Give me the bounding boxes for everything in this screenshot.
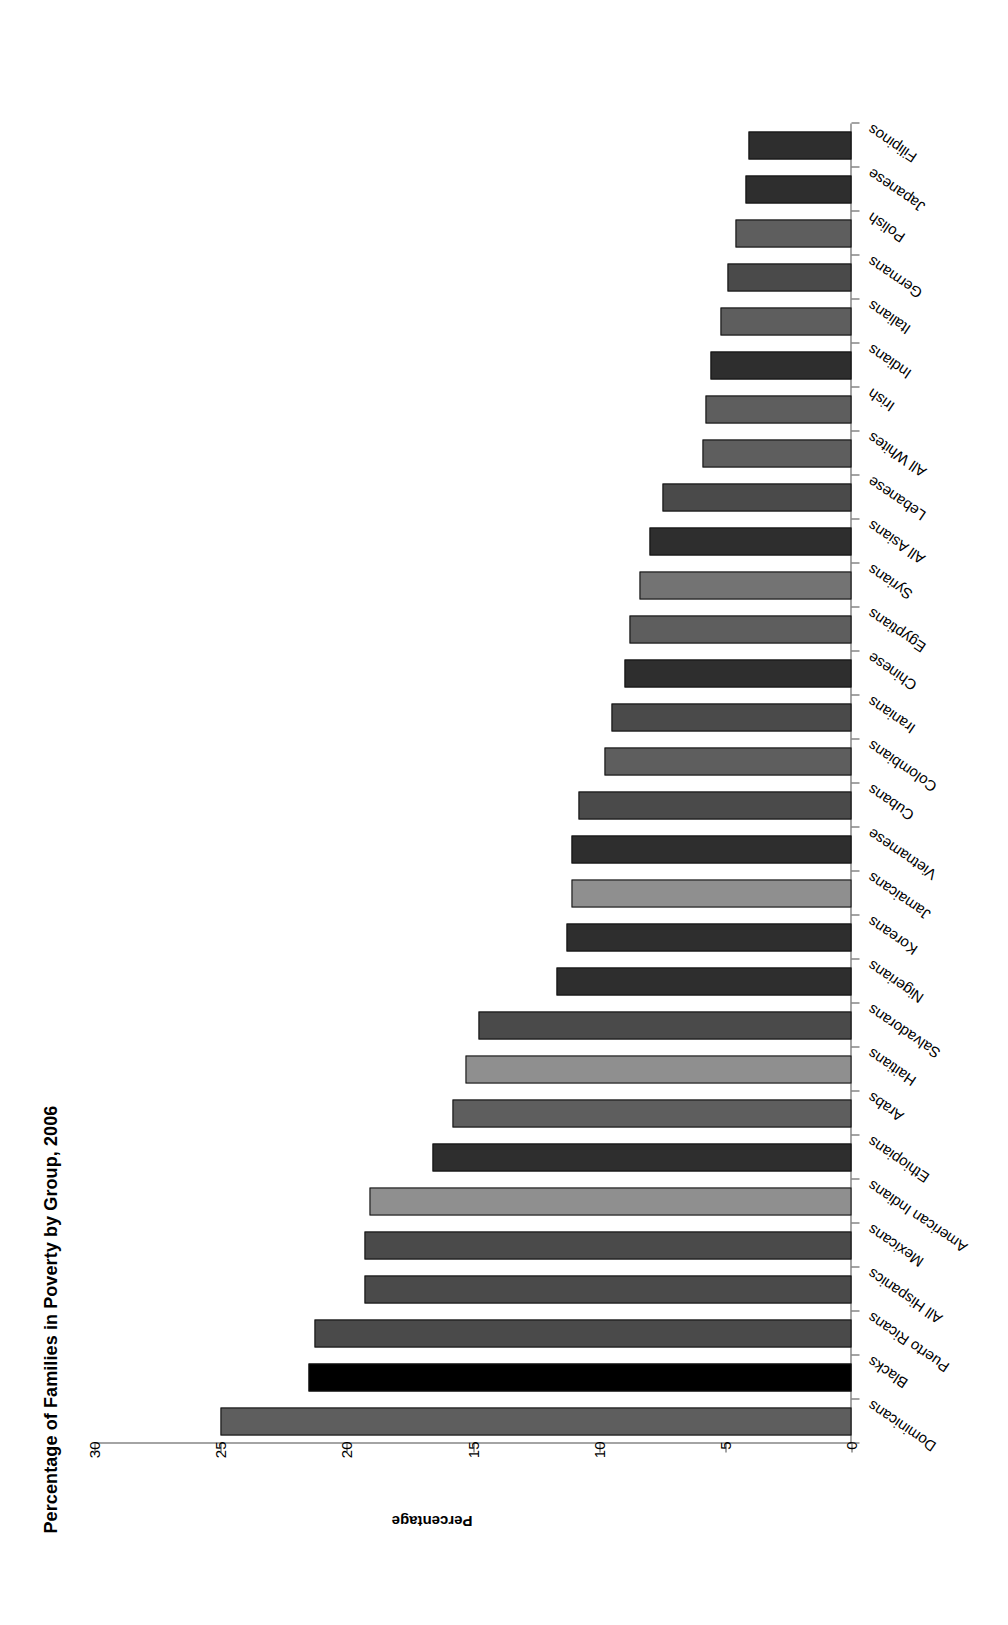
bar-salvadorans xyxy=(478,1011,851,1038)
bar-chart-figure: Percentage of Families in Poverty by Gro… xyxy=(0,0,1008,1625)
x-axis-tick xyxy=(851,1354,859,1355)
category-label-text: Iranians xyxy=(864,693,918,737)
y-axis-tick-label: 30 xyxy=(86,1441,103,1487)
x-axis-tick xyxy=(851,1266,859,1267)
x-axis-tick xyxy=(851,606,859,607)
x-axis-tick xyxy=(851,738,859,739)
x-axis-tick xyxy=(851,254,859,255)
bar-vietnamese xyxy=(571,835,851,862)
x-axis-tick xyxy=(851,430,859,431)
bar-all-asians xyxy=(649,527,851,554)
x-axis-tick xyxy=(851,518,859,519)
bar-dominicans xyxy=(220,1407,851,1434)
category-label-text: Irish xyxy=(864,385,897,415)
category-label-text: Italians xyxy=(864,297,913,338)
bar-indians xyxy=(710,351,851,378)
plot-area: 051015202530 DominicansBlacksPuerto Rica… xyxy=(94,123,851,1443)
x-axis-tick xyxy=(851,122,859,123)
y-axis-tick-label: 10 xyxy=(590,1441,607,1487)
bar-syrians xyxy=(639,571,851,598)
bar-mexicans xyxy=(364,1231,851,1258)
category-label-text: Nigerians xyxy=(864,957,926,1007)
x-axis-tick xyxy=(851,958,859,959)
y-axis-tick-label: 5 xyxy=(716,1441,733,1487)
x-axis-tick xyxy=(851,650,859,651)
category-label-text: Dominicans xyxy=(864,1397,938,1455)
x-axis-tick xyxy=(851,694,859,695)
x-axis-tick xyxy=(851,1442,859,1443)
y-axis-title: Percentage xyxy=(391,1512,472,1529)
bar-irish xyxy=(705,395,851,422)
bar-nigerians xyxy=(556,967,851,994)
x-axis-tick xyxy=(851,1002,859,1003)
bars-container xyxy=(94,123,851,1443)
x-axis-tick xyxy=(851,474,859,475)
category-label-text: Polish xyxy=(864,209,907,246)
category-label-text: Germans xyxy=(864,253,925,302)
x-axis-tick xyxy=(851,210,859,211)
y-axis-tick-label: 15 xyxy=(464,1441,481,1487)
bar-jamaicans xyxy=(571,879,851,906)
x-axis-tick xyxy=(851,562,859,563)
category-label-text: Mexicans xyxy=(864,1221,926,1271)
bar-italians xyxy=(720,307,851,334)
category-label-text: Filipinos xyxy=(864,121,919,166)
bar-cubans xyxy=(578,791,851,818)
x-axis-tick xyxy=(851,826,859,827)
x-axis-tick xyxy=(851,914,859,915)
x-axis-tick xyxy=(851,1398,859,1399)
x-axis-tick xyxy=(851,166,859,167)
x-axis-tick xyxy=(851,298,859,299)
bar-polish xyxy=(735,219,851,246)
x-axis-tick xyxy=(851,386,859,387)
x-axis-tick xyxy=(851,1222,859,1223)
category-label-text: Blacks xyxy=(864,1353,910,1392)
y-axis-tick-label: 20 xyxy=(338,1441,355,1487)
x-axis-tick xyxy=(851,782,859,783)
bar-arabs xyxy=(452,1099,851,1126)
chart-rotation-wrapper: Percentage of Families in Poverty by Gro… xyxy=(0,0,1008,1625)
bar-haitians xyxy=(465,1055,851,1082)
chart-title: Percentage of Families in Poverty by Gro… xyxy=(40,1105,61,1533)
x-axis-tick xyxy=(851,870,859,871)
bar-all-hispanics xyxy=(364,1275,851,1302)
bar-all-whites xyxy=(702,439,851,466)
category-label-text: Indians xyxy=(864,341,914,382)
bar-blacks xyxy=(308,1363,851,1390)
bar-japanese xyxy=(745,175,851,202)
category-label-text: Chinese xyxy=(864,649,919,694)
category-label-text: Koreans xyxy=(864,913,920,958)
bar-germans xyxy=(727,263,851,290)
y-axis-tick-label: 25 xyxy=(212,1441,229,1487)
bar-lebanese xyxy=(662,483,851,510)
bar-egyptians xyxy=(629,615,851,642)
x-axis-tick xyxy=(851,1046,859,1047)
bar-filipinos xyxy=(748,131,851,158)
category-label-text: Arabs xyxy=(864,1089,906,1125)
bar-american-indians xyxy=(369,1187,851,1214)
category-label-text: All Asians xyxy=(864,517,927,567)
bar-puerto-ricans xyxy=(314,1319,851,1346)
category-label-text: Haitians xyxy=(864,1045,918,1089)
category-label-text: Cubans xyxy=(864,781,916,824)
x-axis-tick xyxy=(851,1134,859,1135)
bar-ethiopians xyxy=(432,1143,851,1170)
bar-iranians xyxy=(611,703,851,730)
bar-chinese xyxy=(624,659,851,686)
category-label-text: Syrians xyxy=(864,561,915,603)
y-axis-tick-label: 0 xyxy=(843,1441,860,1487)
x-axis-tick xyxy=(851,1310,859,1311)
x-axis-tick xyxy=(851,342,859,343)
x-axis-tick xyxy=(851,1090,859,1091)
category-label-text: Japanese xyxy=(864,165,927,215)
x-axis-tick xyxy=(851,1178,859,1179)
bar-koreans xyxy=(566,923,851,950)
bar-colombians xyxy=(604,747,851,774)
